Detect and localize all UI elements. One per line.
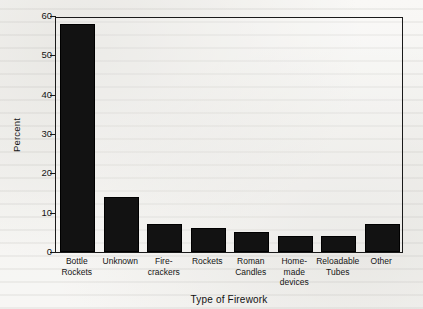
y-tick-label: 50 [41,51,52,61]
x-tick-label: Home- made devices [273,256,317,288]
bar [234,232,269,252]
x-tick-label: Fire- crackers [142,256,186,277]
y-tick-label: 20 [41,169,52,179]
x-tick-label: Unknown [99,256,143,267]
chart-page: Percent 0102030405060 Bottle RocketsUnkn… [0,0,423,309]
y-axis-title: Percent [11,118,22,152]
y-tick-label: 40 [41,90,52,100]
y-tick-label: 60 [41,11,52,21]
x-tick-label: Bottle Rockets [55,256,99,277]
x-tick-label: Roman Candles [229,256,273,277]
bar [104,197,139,252]
x-tick-label: Rockets [186,256,230,267]
bar [278,236,313,252]
bar [147,224,182,252]
x-tick-label: Reloadable Tubes [316,256,360,277]
y-tick-label: 0 [47,247,52,257]
bar [365,224,400,252]
bar [321,236,356,252]
y-tick-label: 10 [41,208,52,218]
bars-layer [56,18,402,252]
plot-frame: 0102030405060 [55,17,403,253]
bar [191,228,226,252]
y-tick-label: 30 [41,129,52,139]
x-tick-label: Other [360,256,404,267]
bar [60,24,95,252]
x-axis-title: Type of Firework [55,294,403,305]
